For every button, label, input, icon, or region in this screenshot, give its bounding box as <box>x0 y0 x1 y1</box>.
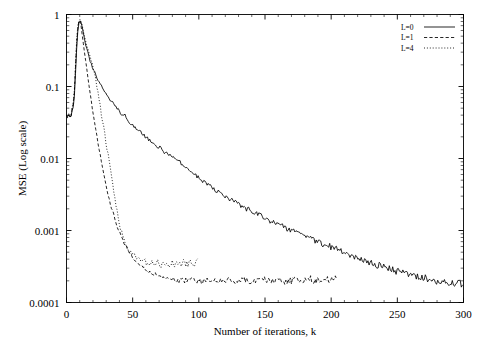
y-tick-label: 0.01 <box>40 153 59 165</box>
x-tick-label: 100 <box>191 308 208 320</box>
y-tick-label: 0.1 <box>46 81 60 93</box>
x-tick-label: 150 <box>257 308 274 320</box>
x-tick-label: 50 <box>127 308 139 320</box>
plot-frame <box>67 15 464 303</box>
x-axis-label: Number of iterations, k <box>214 325 317 337</box>
x-tick-label: 200 <box>323 308 340 320</box>
legend-label-L0: L=0 <box>401 23 414 32</box>
x-tick-label: 0 <box>64 308 70 320</box>
y-tick-label: 0.0001 <box>29 297 59 309</box>
chart-figure: 0501001502002503000.00010.0010.010.11Num… <box>0 0 480 349</box>
y-tick-label: 0.001 <box>35 225 60 237</box>
legend-label-L4: L=4 <box>401 44 414 53</box>
y-tick-label: 1 <box>54 9 60 21</box>
x-tick-label: 300 <box>455 308 472 320</box>
chart-svg: 0501001502002503000.00010.0010.010.11Num… <box>0 0 480 349</box>
x-tick-label: 250 <box>389 308 406 320</box>
y-axis-label: MSE (Log scale) <box>16 121 29 196</box>
legend-label-L1: L=1 <box>401 33 414 42</box>
